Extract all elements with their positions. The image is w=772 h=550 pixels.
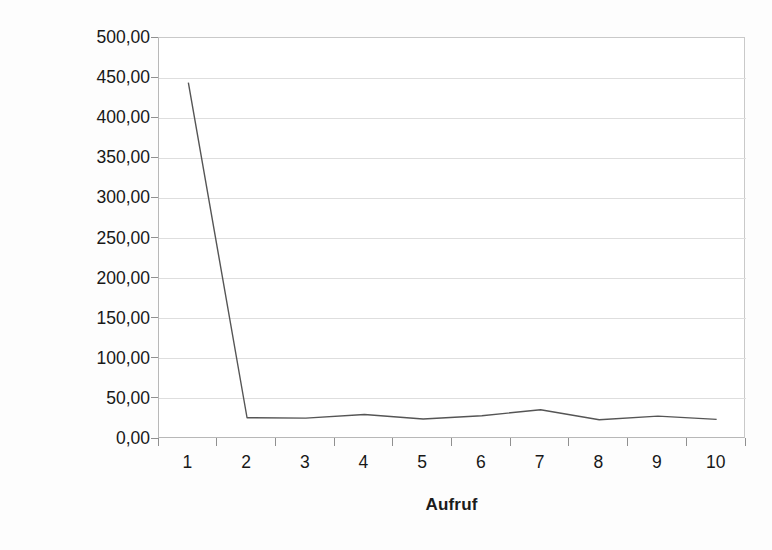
x-tick-label: 9 [627,452,687,473]
x-tick-label: 4 [333,452,393,473]
y-axis-tick-labels: 0,0050,00100,00150,00200,00250,00300,003… [46,37,150,438]
plot-area [158,37,745,438]
data-line-plot [159,38,746,439]
y-tick-label: 250,00 [46,227,150,248]
y-tick-label: 0,00 [46,428,150,449]
chart-container: Antwortzeit [ms] 0,0050,00100,00150,0020… [0,0,772,550]
data-series-line [188,83,716,420]
x-tick-label: 5 [392,452,452,473]
x-tick-label: 7 [510,452,570,473]
x-axis-tick-labels: 12345678910 [158,452,745,478]
y-tick-label: 150,00 [46,307,150,328]
x-tick-label: 6 [451,452,511,473]
y-tick-label: 300,00 [46,187,150,208]
y-tick-label: 400,00 [46,107,150,128]
y-tick-label: 450,00 [46,67,150,88]
x-tick-label: 10 [686,452,746,473]
y-tick-label: 200,00 [46,267,150,288]
x-tick-label: 2 [216,452,276,473]
x-tick-label: 3 [275,452,335,473]
y-tick-label: 100,00 [46,347,150,368]
x-tick-label: 1 [157,452,217,473]
y-tick-label: 350,00 [46,147,150,168]
y-tick-label: 50,00 [46,387,150,408]
x-axis-title: Aufruf [158,495,745,515]
x-tick-label: 8 [568,452,628,473]
y-tick-label: 500,00 [46,27,150,48]
